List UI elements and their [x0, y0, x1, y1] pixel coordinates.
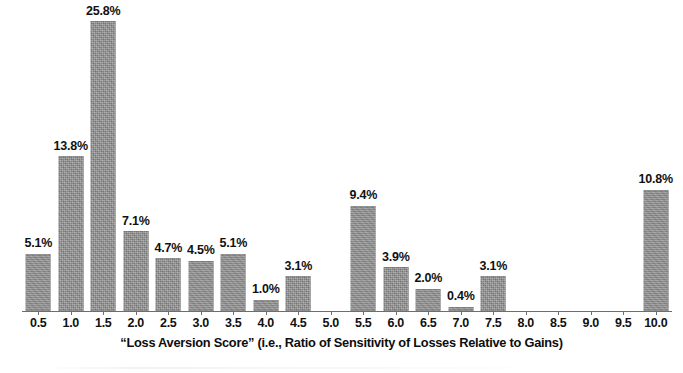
x-axis-tick — [168, 311, 169, 315]
plot-area: 5.1%13.8%25.8%7.1%4.7%4.5%5.1%1.0%3.1%9.… — [22, 8, 672, 311]
bar[interactable] — [253, 300, 278, 311]
x-axis-tick — [266, 311, 267, 315]
x-axis-tick — [558, 311, 559, 315]
bar[interactable] — [91, 21, 116, 311]
x-axis-tick — [623, 311, 624, 315]
x-axis-tick — [331, 311, 332, 315]
bar[interactable] — [351, 206, 376, 311]
bar[interactable] — [188, 261, 213, 312]
bar[interactable] — [26, 254, 51, 311]
bar-value-label: 5.1% — [219, 237, 247, 250]
x-axis-tick — [71, 311, 72, 315]
bar-slot: 5.1% — [217, 8, 250, 311]
x-axis-tick — [396, 311, 397, 315]
bar-slot: 3.1% — [477, 8, 510, 311]
bar[interactable] — [416, 289, 441, 311]
bar-slot: 2.0% — [412, 8, 445, 311]
x-axis-title: “Loss Aversion Score” (i.e., Ratio of Se… — [0, 336, 683, 350]
bar-slot: 1.0% — [250, 8, 283, 311]
bar[interactable] — [286, 276, 311, 311]
bar[interactable] — [481, 276, 506, 311]
bar-value-label: 3.1% — [284, 260, 312, 273]
bar-slot: 25.8% — [87, 8, 120, 311]
bar-slot: 7.1% — [120, 8, 153, 311]
bar-slot: 13.8% — [55, 8, 88, 311]
x-axis-tick — [461, 311, 462, 315]
x-axis-tick — [591, 311, 592, 315]
bar-slot: 0.4% — [445, 8, 478, 311]
bar-slot — [575, 8, 608, 311]
bar-value-label: 0.4% — [447, 290, 475, 303]
bar[interactable] — [383, 267, 408, 311]
bar-value-label: 3.9% — [382, 251, 410, 264]
bar-value-label: 4.5% — [187, 244, 215, 257]
bar[interactable] — [221, 254, 246, 311]
bar-value-label: 3.1% — [479, 260, 507, 273]
bar[interactable] — [156, 258, 181, 311]
scan-artifact — [40, 367, 560, 369]
bar-value-label: 5.1% — [24, 237, 52, 250]
bar-slot: 4.7% — [152, 8, 185, 311]
x-axis-tick — [103, 311, 104, 315]
x-axis-line — [22, 311, 672, 312]
x-axis-tick — [493, 311, 494, 315]
bar-slot: 3.1% — [282, 8, 315, 311]
x-axis-tick — [136, 311, 137, 315]
bar-slot — [510, 8, 543, 311]
bar-value-label: 2.0% — [414, 272, 442, 285]
bar[interactable] — [58, 156, 83, 311]
bar-value-label: 25.8% — [86, 5, 120, 18]
bar-slot: 3.9% — [380, 8, 413, 311]
bar-value-label: 10.8% — [639, 173, 673, 186]
x-axis-tick — [201, 311, 202, 315]
x-axis-tick — [656, 311, 657, 315]
bar-value-label: 7.1% — [122, 215, 150, 228]
bar-slot: 4.5% — [185, 8, 218, 311]
x-axis-tick — [428, 311, 429, 315]
bar-slot — [315, 8, 348, 311]
x-axis-tick — [526, 311, 527, 315]
bar[interactable] — [123, 231, 148, 311]
bar-slot: 10.8% — [640, 8, 673, 311]
bar-slot: 9.4% — [347, 8, 380, 311]
bar-value-label: 4.7% — [154, 242, 182, 255]
bar-slot: 5.1% — [22, 8, 55, 311]
bar-value-label: 9.4% — [349, 189, 377, 202]
bar[interactable] — [643, 190, 668, 311]
x-axis-tick-label: 10.0 — [633, 317, 679, 331]
bar-slot — [607, 8, 640, 311]
bar-slot — [542, 8, 575, 311]
x-axis-tick — [38, 311, 39, 315]
x-axis-tick — [298, 311, 299, 315]
x-axis-tick — [363, 311, 364, 315]
x-axis-tick — [233, 311, 234, 315]
bar-value-label: 1.0% — [252, 283, 280, 296]
bar-value-label: 13.8% — [54, 140, 88, 153]
bar-chart: 5.1%13.8%25.8%7.1%4.7%4.5%5.1%1.0%3.1%9.… — [0, 0, 683, 373]
